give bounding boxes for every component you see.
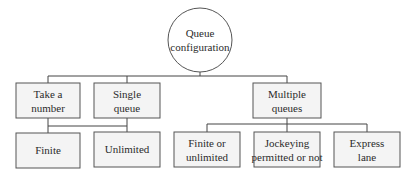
root-label-line2: configuration: [170, 41, 230, 53]
node-single-queue: Single queue: [94, 83, 160, 118]
label-line2: unlimited: [186, 151, 229, 163]
node-finite-or-unlimited: Finite or unlimited: [174, 132, 240, 167]
root-label-line1: Queue: [186, 27, 215, 39]
label-line1: Unlimited: [105, 143, 150, 155]
node-express-lane: Express lane: [334, 132, 400, 167]
label-line1: Finite or: [188, 137, 226, 149]
label-line1: Finite: [35, 144, 61, 156]
queue-configuration-diagram: Queue configuration Take a number Single…: [0, 0, 414, 176]
node-unlimited: Unlimited: [94, 132, 160, 167]
label-line1: Express: [350, 137, 385, 149]
label-line1: Jockeying: [265, 137, 310, 149]
label-line1: Multiple: [268, 88, 306, 100]
label-line2: number: [31, 102, 65, 114]
label-line2: queue: [114, 102, 140, 114]
diagram-canvas: Queue configuration Take a number Single…: [0, 0, 414, 176]
label-line2: queues: [272, 102, 303, 114]
label-line2: lane: [358, 151, 376, 163]
node-jockeying-permitted-or-not: Jockeying permitted or not: [252, 132, 323, 167]
label-line1: Take a: [34, 88, 63, 100]
node-queue-configuration: Queue configuration: [168, 8, 232, 72]
node-multiple-queues: Multiple queues: [253, 83, 321, 118]
label-line1: Single: [113, 88, 141, 100]
label-line2: permitted or not: [252, 151, 323, 163]
root-circle: [168, 8, 232, 72]
node-take-a-number: Take a number: [16, 83, 80, 118]
node-finite: Finite: [16, 133, 80, 168]
